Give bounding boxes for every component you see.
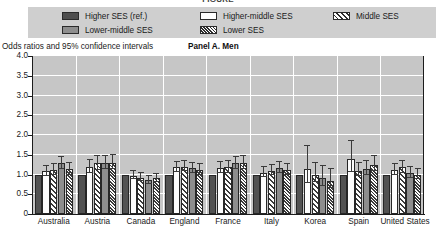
error-bar-middle-ses	[315, 163, 316, 183]
y-tick-label: 2.0	[2, 131, 28, 139]
error-bar-cap-upper	[146, 175, 152, 176]
error-bar-cap-upper	[102, 155, 108, 156]
bar-rect-middle-ses	[137, 178, 144, 214]
figure-root: FIGURE Higher SES (ref.) Higher-middle S…	[0, 0, 436, 246]
group-separator	[163, 56, 164, 214]
error-bar-cap-lower	[407, 177, 413, 178]
error-bar-cap-upper	[51, 163, 57, 164]
x-tick-label: Italy	[250, 217, 294, 227]
chart-legend: Higher SES (ref.) Higher-middle SES Midd…	[28, 7, 436, 38]
error-bar-cap-upper	[261, 166, 267, 167]
error-bar-cap-lower	[174, 171, 180, 172]
error-bar-cap-lower	[261, 176, 267, 177]
error-bar-cap-upper	[130, 170, 136, 171]
bar-rect-middle-ses	[50, 170, 57, 214]
legend-label-lower-ses: Lower SES	[223, 26, 264, 35]
error-bar-cap-lower	[363, 174, 369, 175]
y-tick-mark	[28, 135, 32, 136]
error-bar-cap-upper	[225, 160, 231, 161]
error-bar-cap-upper	[217, 161, 223, 162]
error-bar-cap-lower	[138, 180, 144, 181]
bar-rect-middle-ses	[399, 167, 406, 214]
bar-group	[296, 56, 334, 214]
error-bar-cap-upper	[320, 165, 326, 166]
error-bar-cap-lower	[58, 168, 64, 169]
error-bar-cap-lower	[66, 174, 72, 175]
error-bar-lower-middle-ses	[322, 166, 323, 186]
error-bar-cap-lower	[130, 178, 136, 179]
legend-swatch-higher-ses-icon	[62, 12, 79, 20]
error-bar-cap-upper	[240, 155, 246, 156]
error-bar-cap-lower	[356, 175, 362, 176]
bar-group	[122, 56, 160, 214]
error-bar-cap-lower	[153, 181, 159, 182]
error-bar-middle-ses	[97, 156, 98, 169]
error-bar-cap-lower	[43, 175, 49, 176]
group-separator	[250, 56, 251, 214]
legend-label-middle-ses: Middle SES	[356, 12, 399, 21]
y-tick-label: 1.0	[2, 171, 28, 179]
error-bar-cap-upper	[110, 154, 116, 155]
y-tick-label: 3.0	[2, 92, 28, 100]
x-tick-label: Spain	[337, 217, 381, 227]
y-tick-mark	[28, 115, 32, 116]
bar-rect-higher-middle-ses	[42, 171, 49, 214]
error-bar-cap-lower	[233, 168, 239, 169]
bar-rect-higher-ses	[340, 175, 347, 215]
error-bar-higher-middle-ses	[351, 141, 352, 173]
group-separator	[119, 56, 120, 214]
y-tick-label: 4.0	[2, 52, 28, 60]
error-bar-cap-upper	[392, 163, 398, 164]
group-separator	[380, 56, 381, 214]
legend-item-higher-middle-ses: Higher-middle SES	[200, 9, 293, 23]
bar-rect-lower-ses	[414, 175, 421, 215]
error-bar-lower-middle-ses	[105, 156, 106, 169]
error-bar-cap-lower	[197, 174, 203, 175]
error-bar-lower-ses	[374, 156, 375, 172]
error-bar-cap-upper	[328, 168, 334, 169]
error-bar-cap-upper	[356, 162, 362, 163]
legend-item-middle-ses: Middle SES	[333, 9, 399, 23]
bar-rect-higher-ses	[253, 175, 260, 215]
y-tick-mark	[28, 214, 32, 215]
bar-rect-middle-ses	[224, 167, 231, 214]
x-tick-label: Canada	[119, 217, 163, 227]
error-bar-cap-lower	[240, 168, 246, 169]
group-separator	[337, 56, 338, 214]
error-bar-cap-lower	[348, 171, 354, 172]
error-bar-cap-upper	[233, 156, 239, 157]
bar-rect-lower-ses	[153, 178, 160, 214]
error-bar-cap-lower	[312, 181, 318, 182]
legend-swatch-lower-middle-ses-icon	[62, 26, 79, 34]
figure-title-cropped: FIGURE	[0, 0, 436, 7]
error-bar-cap-lower	[269, 174, 275, 175]
y-tick-label: 3.5	[2, 72, 28, 80]
bar-rect-lower-ses	[66, 169, 73, 214]
error-bar-cap-lower	[284, 174, 290, 175]
y-tick-mark	[28, 194, 32, 195]
bar-rect-higher-middle-ses	[130, 176, 137, 214]
x-tick-label: Korea	[293, 217, 337, 227]
error-bar-cap-upper	[399, 160, 405, 161]
panel-label: Panel A. Men	[188, 42, 239, 51]
error-bar-cap-upper	[66, 162, 72, 163]
error-bar-cap-upper	[348, 140, 354, 141]
error-bar-cap-lower	[181, 170, 187, 171]
error-bar-cap-upper	[138, 172, 144, 173]
x-tick-label: United States	[380, 217, 424, 227]
legend-swatch-middle-ses-icon	[333, 12, 350, 20]
bar-rect-lower-middle-ses	[232, 163, 239, 214]
legend-swatch-higher-middle-ses-icon	[200, 12, 217, 20]
error-bar-cap-lower	[415, 178, 421, 179]
bar-rect-lower-ses	[370, 165, 377, 214]
bar-group	[35, 56, 73, 214]
legend-row-2: Lower-middle SES Lower SES	[28, 23, 436, 37]
bar-rect-lower-middle-ses	[363, 169, 370, 214]
error-bar-cap-upper	[43, 165, 49, 166]
bar-group	[340, 56, 378, 214]
figure-title-text: FIGURE	[0, 0, 436, 4]
error-bar-cap-lower	[110, 168, 116, 169]
bar-rect-middle-ses	[181, 167, 188, 214]
x-tick-label: Australia	[32, 217, 76, 227]
legend-swatch-lower-ses-icon	[200, 26, 217, 34]
